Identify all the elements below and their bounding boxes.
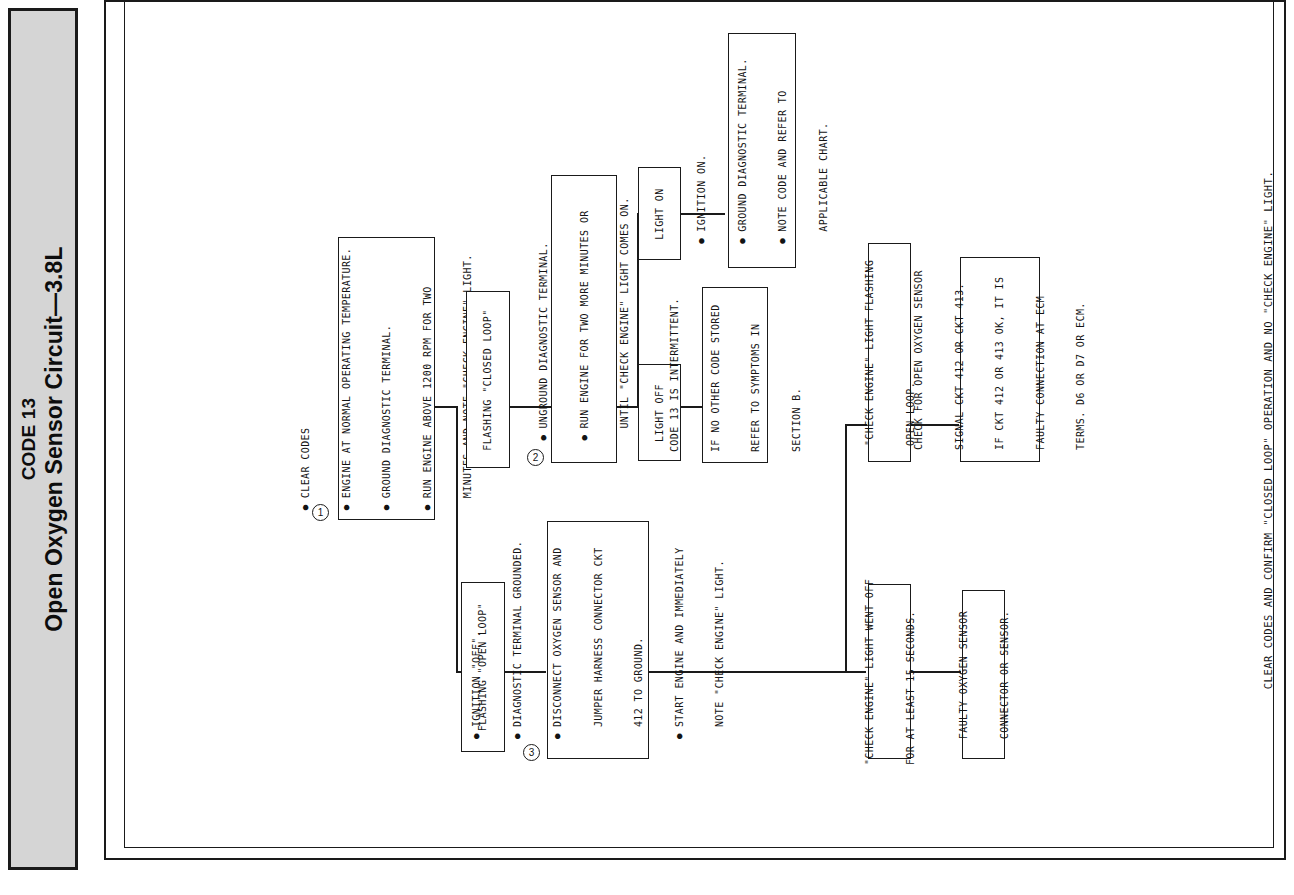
box-line: GROUND DIAGNOSTIC TERMINAL. — [380, 247, 394, 509]
box-line: IGNITION ON. — [695, 58, 709, 243]
box-line: GROUND DIAGNOSTIC TERMINAL. — [735, 58, 749, 243]
step-marker-1: 1 — [312, 504, 329, 521]
box-jumper-harness-step[interactable]: IGNITION "OFF". DIAGNOSTIC TERMINAL GROU… — [547, 521, 649, 759]
step-marker-3: 3 — [523, 744, 540, 761]
box-line: IGNITION "OFF". — [470, 541, 484, 739]
box-line: NOTE "CHECK ENGINE" LIGHT. — [713, 541, 727, 739]
box-line: FAULTY CONNECTION AT ECM — [1034, 270, 1048, 450]
box-faulty-oxygen-sensor[interactable]: FAULTY OXYGEN SENSOR CONNECTOR OR SENSOR… — [962, 590, 1005, 759]
box-line: ENGINE AT NORMAL OPERATING TEMPERATURE. — [339, 247, 353, 509]
box-jumper-harness-text: IGNITION "OFF". DIAGNOSTIC TERMINAL GROU… — [416, 541, 781, 739]
footer-note-text: CLEAR CODES AND CONFIRM "CLOSED LOOP" OP… — [1262, 171, 1274, 689]
page-title: Open Oxygen Sensor Circuit—3.8L — [41, 19, 69, 859]
box-line: "CHECK ENGINE" LIGHT WENT OFF — [863, 578, 877, 764]
box-ignition-on[interactable]: IGNITION ON. GROUND DIAGNOSTIC TERMINAL.… — [728, 33, 796, 268]
code-label: CODE 13 — [17, 19, 40, 859]
step-marker-2: 2 — [527, 449, 544, 466]
box-line: IF NO OTHER CODE STORED — [708, 298, 722, 452]
box-line: NOTE CODE AND REFER TO — [776, 58, 790, 243]
box-line: FAULTY OXYGEN SENSOR — [957, 610, 971, 738]
box-line: JUMPER HARNESS CONNECTOR CKT — [591, 541, 605, 739]
box-line: CLEAR CODES — [299, 247, 313, 509]
box-code-13-intermittent[interactable]: CODE 13 IS INTERMITTENT. IF NO OTHER COD… — [702, 287, 768, 463]
flowchart-page: CODE 13 Open Oxygen Sensor Circuit—3.8L … — [0, 0, 1294, 895]
box-line: SIGNAL CKT 412 OR CKT 413. — [953, 270, 967, 450]
box-ignition-on-text: IGNITION ON. GROUND DIAGNOSTIC TERMINAL.… — [641, 58, 884, 243]
box-line: CONNECTOR OR SENSOR. — [997, 610, 1011, 738]
box-line: SECTION B. — [789, 298, 803, 452]
box-line: REFER TO SYMPTOMS IN — [749, 298, 763, 452]
title-band: CODE 13 Open Oxygen Sensor Circuit—3.8L — [8, 8, 78, 870]
footer-note: CLEAR CODES AND CONFIRM "CLOSED LOOP" OP… — [1248, 0, 1288, 860]
box-line: START ENGINE AND IMMEDIATELY — [672, 541, 686, 739]
box-line: IF CKT 412 OR 413 OK, IT IS — [993, 270, 1007, 450]
box-line: CODE 13 IS INTERMITTENT. — [668, 298, 682, 452]
box-line: CHECK FOR OPEN OXYGEN SENSOR — [912, 270, 926, 450]
title-band-text: CODE 13 Open Oxygen Sensor Circuit—3.8L — [17, 19, 68, 859]
box-line: UNGROUND DIAGNOSTIC TERMINAL. — [537, 197, 551, 440]
box-line: DISCONNECT OXYGEN SENSOR AND — [551, 541, 565, 739]
box-line: RUN ENGINE FOR TWO MORE MINUTES OR — [577, 197, 591, 440]
box-check-open-oxygen-sensor[interactable]: CHECK FOR OPEN OXYGEN SENSOR SIGNAL CKT … — [960, 257, 1040, 462]
box-line: DIAGNOSTIC TERMINAL GROUNDED. — [510, 541, 524, 739]
box-check-sensor-text: CHECK FOR OPEN OXYGEN SENSOR SIGNAL CKT … — [858, 270, 1142, 450]
box-faulty-sensor-text: FAULTY OXYGEN SENSOR CONNECTOR OR SENSOR… — [903, 610, 1065, 738]
box-line: APPLICABLE CHART. — [816, 58, 830, 243]
box-line: TERMS. D6 OR D7 OR ECM. — [1074, 270, 1088, 450]
box-line: 412 TO GROUND. — [632, 541, 646, 739]
box-clear-codes-step[interactable]: CLEAR CODES ENGINE AT NORMAL OPERATING T… — [338, 237, 435, 520]
